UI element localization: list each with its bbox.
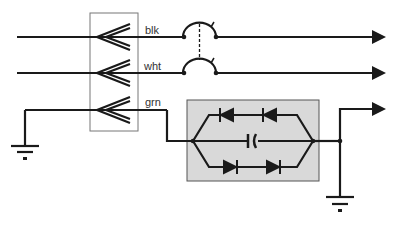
wire-label-blk: blk — [145, 25, 159, 36]
ground-icon-right — [338, 209, 342, 212]
wiring-diagram — [0, 0, 394, 227]
grn-out-wire — [340, 109, 374, 141]
junction-node — [338, 139, 343, 144]
wire-label-wht: wht — [144, 61, 161, 72]
ground-icon-left — [23, 157, 27, 160]
wire-label-grn: grn — [145, 97, 161, 108]
arrow-right-icon — [372, 30, 386, 44]
arrow-right-icon — [372, 102, 386, 116]
breaker-arc-wht — [183, 59, 216, 73]
arrow-right-icon — [372, 66, 386, 80]
